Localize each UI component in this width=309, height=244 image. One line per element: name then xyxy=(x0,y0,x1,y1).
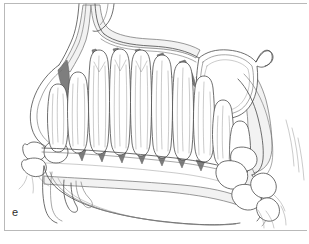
tooth-germ-4 xyxy=(110,49,131,155)
incisor-root-tail-2 xyxy=(32,177,33,193)
posterior-soft-tissue-group xyxy=(286,120,304,180)
tooth-germ-3 xyxy=(89,50,110,154)
nasal-roof-bone xyxy=(91,5,200,58)
anatomical-illustration xyxy=(0,0,309,244)
figure-root: e xyxy=(0,0,309,244)
soft-tissue-edge-1 xyxy=(286,120,294,166)
post-tooth-root-3 xyxy=(281,206,286,225)
tooth-germ-5 xyxy=(131,50,152,156)
incisor-crown-2 xyxy=(22,158,47,177)
hard-palate-bone xyxy=(44,176,238,205)
figure-label: e xyxy=(12,206,18,218)
soft-tissue-edge-2 xyxy=(292,128,299,172)
incisor-root-tail-1 xyxy=(19,176,27,189)
soft-tissue-edge-3 xyxy=(298,138,304,180)
